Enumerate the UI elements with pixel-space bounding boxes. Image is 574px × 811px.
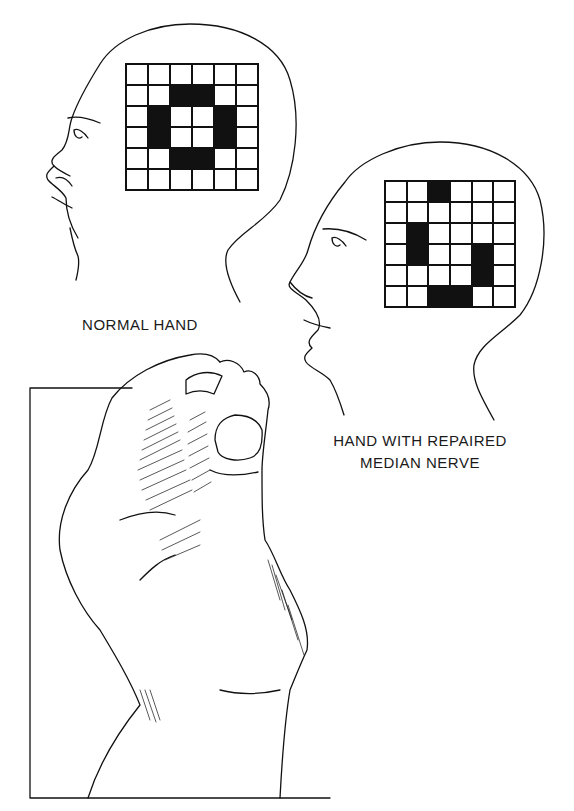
grid-cell-empty [493, 265, 515, 286]
grid-cell-filled [170, 85, 192, 106]
grid-cell-empty [236, 169, 258, 190]
grid-cell-empty [236, 127, 258, 148]
grid-cell-empty [428, 265, 450, 286]
hand-outline [59, 354, 307, 798]
grid-cell-empty [192, 106, 214, 127]
grid-cell-empty [126, 169, 148, 190]
grid-cell-filled [214, 127, 236, 148]
grid-cell-empty [126, 127, 148, 148]
grid-cell-filled [450, 286, 472, 307]
grid-cell-empty [493, 244, 515, 265]
grid-cell-empty [385, 265, 407, 286]
grid-cell-empty [450, 202, 472, 223]
grid-cell-empty [170, 169, 192, 190]
grid-cell-empty [493, 202, 515, 223]
label-repaired-line1: HAND WITH REPAIRED [290, 430, 550, 452]
grid-cell-empty [407, 265, 429, 286]
grid-cell-empty [407, 181, 429, 202]
grid-cell-filled [472, 244, 494, 265]
grid-cell-empty [385, 286, 407, 307]
grid-cell-empty [385, 223, 407, 244]
grid-cell-filled [148, 106, 170, 127]
grid-cell-filled [192, 85, 214, 106]
grid-cell-empty [472, 286, 494, 307]
grid-cell-empty [192, 169, 214, 190]
grid-cell-empty [493, 286, 515, 307]
grid-cell-empty [407, 286, 429, 307]
grid-cell-empty [148, 148, 170, 169]
grid-cell-empty [192, 127, 214, 148]
grid-cell-empty [385, 181, 407, 202]
grid-cell-empty [214, 148, 236, 169]
grid-cell-filled [428, 181, 450, 202]
grid-cell-filled [407, 244, 429, 265]
grid-cell-empty [148, 169, 170, 190]
sensory-grid-repaired [384, 180, 516, 308]
grid-cell-empty [126, 148, 148, 169]
grid-cell-empty [148, 64, 170, 85]
grid-cell-empty [407, 202, 429, 223]
grid-cell-empty [236, 64, 258, 85]
grid-cell-filled [170, 148, 192, 169]
grid-cell-empty [428, 223, 450, 244]
grid-cell-empty [385, 202, 407, 223]
grid-cell-filled [472, 265, 494, 286]
grid-cell-empty [170, 106, 192, 127]
grid-cell-empty [126, 85, 148, 106]
grid-cell-empty [126, 64, 148, 85]
grid-cell-empty [493, 223, 515, 244]
grid-cell-empty [450, 244, 472, 265]
grid-cell-empty [450, 223, 472, 244]
grid-cell-empty [214, 64, 236, 85]
grid-cell-empty [236, 106, 258, 127]
label-repaired-line2: MEDIAN NERVE [290, 452, 550, 474]
grid-cell-empty [385, 244, 407, 265]
grid-cell-empty [428, 202, 450, 223]
grid-cell-filled [192, 148, 214, 169]
grid-cell-empty [472, 181, 494, 202]
grid-cell-empty [214, 85, 236, 106]
sensory-grid-normal [125, 63, 259, 191]
grid-cell-empty [148, 85, 170, 106]
grid-cell-filled [428, 286, 450, 307]
grid-cell-empty [450, 265, 472, 286]
grid-cell-empty [236, 85, 258, 106]
grid-cell-empty [472, 223, 494, 244]
grid-cell-empty [192, 64, 214, 85]
line-art-illustration [0, 0, 574, 811]
grid-cell-empty [472, 202, 494, 223]
grid-cell-empty [450, 181, 472, 202]
grid-cell-filled [407, 223, 429, 244]
grid-cell-empty [493, 181, 515, 202]
grid-cell-empty [170, 127, 192, 148]
grid-cell-empty [126, 106, 148, 127]
grid-cell-filled [148, 127, 170, 148]
grid-cell-empty [214, 169, 236, 190]
grid-cell-empty [428, 244, 450, 265]
label-normal-hand: NORMAL HAND [40, 314, 240, 336]
label-repaired-median-nerve: HAND WITH REPAIRED MEDIAN NERVE [290, 430, 550, 474]
grid-cell-empty [170, 64, 192, 85]
grid-cell-filled [214, 106, 236, 127]
grid-cell-empty [236, 148, 258, 169]
